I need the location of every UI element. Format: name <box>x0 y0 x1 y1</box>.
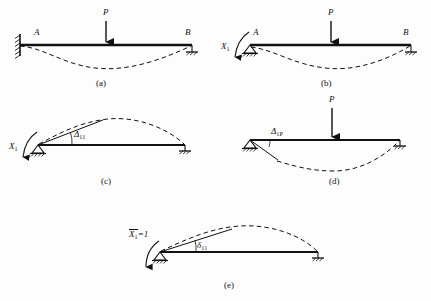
figure-caption-e: (e) <box>224 281 234 290</box>
roller-support-icon-a <box>186 45 198 55</box>
load-label-b: P <box>328 8 334 17</box>
unit-redundant-symbol-e: X <box>129 229 135 239</box>
unit-redundant-overbar-e: X1 <box>129 229 138 239</box>
roller-support-icon-b <box>405 45 417 55</box>
redundant-symbol-b: X <box>221 41 227 51</box>
flexibility-label-e: δ11 <box>197 241 208 250</box>
roller-support-icon-c <box>179 145 191 154</box>
figure-canvas <box>0 0 431 301</box>
figure-caption-a: (a) <box>96 79 106 88</box>
deflection-curve-d <box>277 141 399 171</box>
figure-caption-c: (c) <box>101 177 111 186</box>
flexibility-subscript-e: 11 <box>201 244 207 251</box>
node-label-b-left: A <box>253 28 259 37</box>
node-label-a-right: B <box>185 28 191 37</box>
redundant-symbol-c: X <box>9 141 15 151</box>
displacement-label-c: Δ11 <box>74 130 86 139</box>
unit-redundant-subscript-e: 1 <box>135 233 138 240</box>
deflection-curve-a <box>20 46 191 69</box>
node-label-b-right: B <box>403 28 409 37</box>
angle-arc-e <box>195 240 196 252</box>
load-label-d: P <box>329 95 335 104</box>
figure-d <box>242 108 406 171</box>
unit-redundant-equals-e: =1 <box>138 229 149 239</box>
figure-c <box>23 119 191 157</box>
displacement-subscript-c: 11 <box>79 133 85 140</box>
pin-support-icon-d <box>242 140 258 152</box>
redundant-label-c: X1 <box>9 142 18 151</box>
deflection-curve-c <box>39 119 184 144</box>
displacement-label-d: Δ1P <box>271 127 283 136</box>
deflection-curve-b <box>251 46 410 69</box>
pin-support-icon-b <box>242 45 258 57</box>
load-label-a: P <box>103 8 109 17</box>
redundant-label-b: X1 <box>221 42 230 51</box>
diagram-sheet: A B P (a) A B P X1 (b) X1 Δ11 (c) P Δ1P … <box>0 0 431 301</box>
figure-caption-b: (b) <box>321 79 332 88</box>
tangent-line-d <box>250 140 278 160</box>
angle-arc-c <box>71 133 73 146</box>
pin-support-icon-c <box>30 145 46 157</box>
displacement-subscript-d: 1P <box>276 130 283 137</box>
figure-e <box>146 226 324 267</box>
unit-redundant-label-e: X1=1 <box>129 229 148 239</box>
redundant-subscript-b: 1 <box>227 45 230 52</box>
roller-support-icon-e <box>312 252 324 261</box>
pin-support-icon-e <box>152 252 168 264</box>
node-label-a-left: A <box>34 28 40 37</box>
fixed-support-icon-a <box>15 34 20 59</box>
figure-a <box>15 21 198 69</box>
redundant-subscript-c: 1 <box>15 145 18 152</box>
figure-caption-d: (d) <box>329 177 340 186</box>
deflection-curve-e <box>161 226 317 251</box>
figure-b <box>235 21 417 69</box>
